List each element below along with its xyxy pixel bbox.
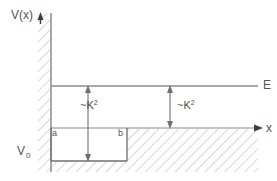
k2-left-label: ~K2 (80, 100, 98, 111)
potential-floor-symbol: V (17, 144, 25, 158)
y-axis-label: V(x) (11, 9, 33, 21)
k2-right-exponent: 2 (191, 99, 195, 106)
well-right-boundary-label: b (118, 129, 123, 138)
k2-left-text: ~K (80, 99, 94, 111)
well-left-boundary-label: a (52, 129, 57, 138)
diagram-canvas (0, 0, 277, 181)
well-floor-hatch (51, 162, 127, 172)
k2-left-arrow (85, 85, 91, 162)
k2-right-text: ~K (177, 99, 191, 111)
left-barrier-hatch (38, 13, 51, 172)
k2-right-label: ~K2 (177, 100, 195, 111)
potential-floor-subscript: 0 (26, 151, 30, 160)
potential-well-diagram: V(x) V0 E x a b ~K2 ~K2 (0, 0, 277, 181)
right-region-hatch (127, 129, 258, 172)
k2-right-arrow (167, 85, 173, 129)
potential-floor-label: V0 (17, 145, 29, 157)
energy-level-label: E (263, 79, 271, 91)
k2-left-exponent: 2 (94, 99, 98, 106)
x-axis-label: x (266, 122, 272, 134)
